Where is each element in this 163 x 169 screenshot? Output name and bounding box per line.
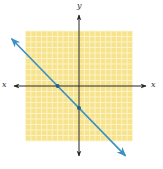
y-axis-label: y [77, 1, 82, 10]
data-point [56, 84, 60, 88]
coordinate-plane [0, 0, 163, 169]
x-axis-label-right: x [151, 80, 156, 89]
x-axis-label-left: x [2, 80, 7, 89]
data-point [77, 106, 81, 110]
